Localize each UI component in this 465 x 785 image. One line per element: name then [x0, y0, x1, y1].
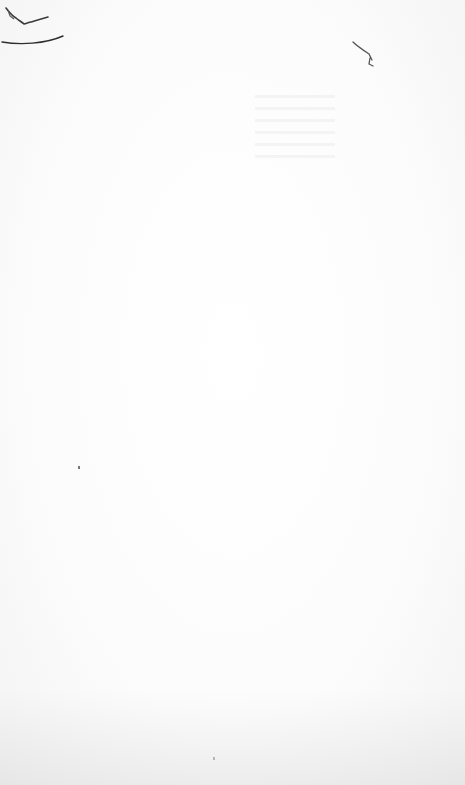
pencil-mark-icon [345, 38, 385, 78]
speck [213, 757, 215, 760]
speck [78, 466, 80, 469]
bleed-through-text [255, 95, 335, 165]
pencil-arc-icon [0, 25, 70, 50]
scanned-page [0, 0, 465, 785]
